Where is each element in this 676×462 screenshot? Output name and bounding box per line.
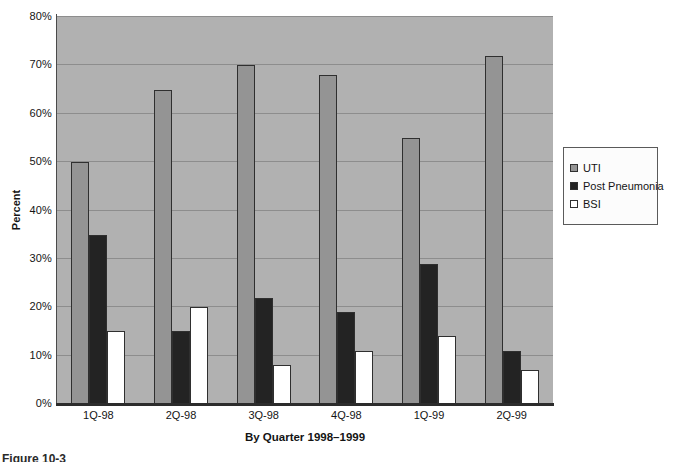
y-tick-label-70: 70% [29,58,52,70]
y-tick-label-30: 30% [29,252,52,264]
x-tick-label-4Q-98: 4Q-98 [305,409,388,421]
x-tick-label-1Q-99: 1Q-99 [388,409,471,421]
legend-swatch-icon [570,164,578,172]
legend-item-post-pneumonia: Post Pneumonia [570,180,651,192]
bar-post-pneumonia-2Q-99 [503,351,521,404]
chart-figure: Percent 0%10%20%30%40%50%60%70%80% 1Q-98… [0,0,676,462]
x-axis-line [56,403,554,406]
bar-group-3Q-98 [222,17,305,404]
bar-post-pneumonia-2Q-98 [172,331,190,404]
bar-bsi-2Q-98 [190,307,208,404]
bar-bsi-1Q-98 [107,331,125,404]
x-tick-label-1Q-98: 1Q-98 [57,409,140,421]
bar-post-pneumonia-4Q-98 [337,312,355,404]
bar-uti-1Q-99 [402,138,420,404]
y-tick-label-0: 0% [36,397,52,409]
plot-area [57,16,553,404]
x-tick-label-2Q-99: 2Q-99 [470,409,553,421]
y-axis-line [56,14,57,404]
x-tick-label-2Q-98: 2Q-98 [140,409,223,421]
legend: UTIPost PneumoniaBSI [563,147,658,225]
bar-group-1Q-99 [388,17,471,404]
bar-bsi-4Q-98 [355,351,373,404]
y-tick-label-40: 40% [29,204,52,216]
y-tick-label-50: 50% [29,155,52,167]
bar-bsi-1Q-99 [438,336,456,404]
bar-post-pneumonia-1Q-98 [89,235,107,404]
legend-item-uti: UTI [570,162,651,174]
legend-item-bsi: BSI [570,198,651,210]
bar-uti-4Q-98 [319,75,337,404]
x-tick-label-3Q-98: 3Q-98 [222,409,305,421]
bar-uti-1Q-98 [71,162,89,404]
bar-group-4Q-98 [305,17,388,404]
x-axis-ticks: 1Q-982Q-983Q-984Q-981Q-992Q-99 [57,409,553,421]
bar-uti-2Q-98 [154,90,172,404]
bar-group-1Q-98 [57,17,140,404]
legend-label: UTI [583,162,601,174]
legend-swatch-icon [570,182,578,190]
legend-label: BSI [583,198,601,210]
y-tick-label-60: 60% [29,107,52,119]
y-tick-label-80: 80% [29,10,52,22]
bar-post-pneumonia-3Q-98 [255,298,273,404]
bar-uti-2Q-99 [485,56,503,404]
legend-swatch-icon [570,200,578,208]
bar-bsi-2Q-99 [521,370,539,404]
bar-groups-container [57,17,553,404]
bar-group-2Q-98 [140,17,223,404]
y-axis-ticks: 0%10%20%30%40%50%60%70%80% [0,16,52,403]
bar-bsi-3Q-98 [273,365,291,404]
figure-caption: Figure 10-3 [2,452,402,462]
y-tick-label-20: 20% [29,300,52,312]
y-tick-label-10: 10% [29,349,52,361]
bar-post-pneumonia-1Q-99 [420,264,438,404]
legend-label: Post Pneumonia [583,180,664,192]
bar-group-2Q-99 [470,17,553,404]
bar-uti-3Q-98 [237,65,255,404]
x-axis-title: By Quarter 1998–1999 [57,431,553,443]
